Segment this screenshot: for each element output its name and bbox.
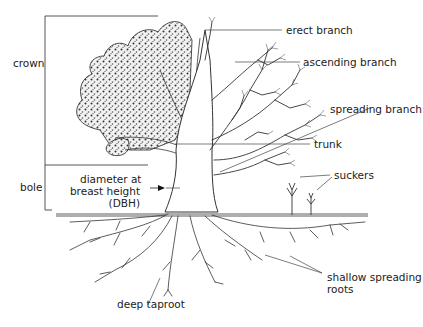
label-dbh-line3: (DBH) bbox=[90, 197, 140, 209]
dbh-arrow bbox=[150, 185, 165, 191]
leafy-crown bbox=[77, 22, 192, 156]
label-ascending-branch: ascending branch bbox=[303, 56, 397, 68]
label-spreading-branch: spreading branch bbox=[330, 103, 422, 115]
bare-branches bbox=[205, 22, 320, 175]
label-shallow-roots-line1: shallow spreading bbox=[327, 271, 422, 283]
suckers bbox=[287, 183, 315, 215]
tree-anatomy-diagram: crown bole diameter at breast height (DB… bbox=[0, 0, 423, 327]
label-shallow-roots-line2: roots bbox=[327, 283, 354, 295]
label-dbh-line1: diameter at bbox=[80, 173, 140, 185]
label-suckers: suckers bbox=[334, 169, 374, 181]
label-bole: bole bbox=[20, 181, 42, 193]
label-crown: crown bbox=[13, 57, 45, 69]
label-deep-taproot: deep taproot bbox=[117, 298, 185, 310]
label-dbh-line2: breast height bbox=[60, 185, 140, 197]
label-erect-branch: erect branch bbox=[286, 24, 353, 36]
label-trunk: trunk bbox=[314, 138, 342, 150]
roots bbox=[70, 214, 365, 296]
